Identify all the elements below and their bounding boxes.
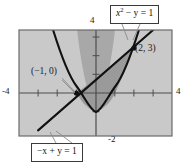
y-axis-min-label: -2 <box>108 135 116 144</box>
graph-figure: -4 4 4 -2 (−1, 0) (2, 3) x2 − y = 1 −x +… <box>0 0 188 166</box>
y-axis-max-label: 4 <box>90 16 95 25</box>
point-label-minus-one-zero: (−1, 0) <box>31 67 57 77</box>
x-axis-min-label: -4 <box>2 87 10 96</box>
equation-parabola-suffix: − y = 1 <box>123 8 153 18</box>
equation-box-line: −x + y = 1 <box>31 143 83 162</box>
equation-box-parabola: x2 − y = 1 <box>110 5 159 24</box>
point-label-two-three: (2, 3) <box>135 44 156 54</box>
x-axis-max-label: 4 <box>176 87 181 96</box>
